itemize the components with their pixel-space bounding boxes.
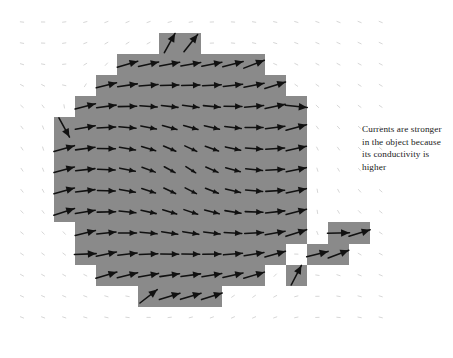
field-arrow [20,64,23,65]
field-arrow [20,317,23,318]
field-arrow [274,296,277,298]
field-arrow [42,189,44,192]
field-arrow [317,210,318,213]
field-arrow [105,63,107,65]
field-arrow [63,232,65,235]
field-arrow [63,43,66,44]
field-arrow [63,253,66,255]
field-arrow [41,64,44,65]
field-arrow [21,253,24,255]
field-arrow [84,63,87,65]
field-arrow [316,63,319,65]
field-arrow [63,317,66,318]
field-arrow [337,63,340,65]
field-arrow [84,84,86,87]
field-arrow [21,168,23,171]
field-arrow [317,168,318,171]
field-arrow [358,105,361,107]
field-arrow [358,296,361,297]
field-arrow [21,232,24,234]
field-arrow [252,22,255,23]
field-arrow [358,253,361,255]
field-arrow [379,275,382,276]
field-arrow [21,274,24,276]
field-arrow [126,42,129,44]
field-arrow [253,317,256,318]
field-arrow [63,274,66,276]
field-arrow [63,85,66,86]
field-arrow [379,63,382,65]
field-arrow [379,105,382,107]
field-arrow [84,296,87,297]
field-arrow [337,275,340,276]
vector-field-plot [0,0,453,358]
field-arrow [358,190,360,193]
field-arrow [168,22,171,23]
field-arrow [63,296,66,297]
field-arrow [253,295,256,297]
field-arrow [21,211,23,213]
field-arrow [84,317,87,318]
field-arrow [42,317,45,318]
field-arrow [21,126,23,129]
field-arrow [337,105,340,107]
field-arrow [316,126,318,129]
field-arrow [358,63,361,65]
field-arrow [232,295,235,297]
field-arrow [43,126,44,129]
field-arrow [379,84,382,86]
field-arrow [316,42,319,43]
field-arrow [317,189,318,192]
field-arrow [338,168,340,171]
field-arrow [295,296,298,297]
field-arrow [21,189,23,192]
field-arrow [42,168,43,171]
field-arrow [20,296,23,297]
field-arrow [84,274,87,276]
field-arrow [337,84,340,86]
field-arrow [379,317,382,318]
field-arrow [295,22,298,23]
field-arrow [358,317,361,318]
field-arrow [42,296,45,297]
field-arrow [105,296,108,297]
field-arrow [337,42,340,43]
field-arrow [295,84,298,86]
field-arrow [358,21,361,22]
field-arrow [317,231,318,234]
field-arrow [42,211,44,214]
field-arrow [358,168,360,171]
field-arrow [358,42,361,43]
field-arrow [316,84,319,86]
field-arrow [20,43,23,44]
field-arrow [316,275,319,276]
field-arrow [210,317,213,318]
field-arrow [338,210,340,213]
field-arrow [274,43,277,44]
field-arrow [337,296,340,297]
field-arrow [147,21,150,22]
field-arrow [358,147,360,149]
field-arrow [21,105,24,107]
field-arrow [358,211,360,213]
field-arrow [379,232,382,234]
field-arrow [42,253,45,255]
field-arrow [295,317,298,318]
field-arrow [84,42,87,43]
field-arrow [126,296,129,297]
field-arrow [189,22,192,23]
field-arrow [274,274,276,276]
field-arrow [295,63,298,65]
field-arrow [42,85,45,87]
field-arrow [316,21,319,22]
field-arrow [84,22,87,23]
field-arrow [147,42,150,44]
field-arrow [379,211,382,213]
field-arrow [231,317,234,318]
field-arrow [21,147,23,150]
field-arrow [379,190,382,192]
field-arrow [105,317,108,318]
field-arrow [274,64,277,65]
field-arrow [317,147,319,150]
field-arrow [358,275,361,276]
